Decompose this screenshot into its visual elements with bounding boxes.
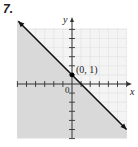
point-label: (0, 1) [76, 64, 98, 76]
x-axis-label: x [129, 86, 135, 97]
origin-label: 0 [65, 85, 70, 95]
y-axis-label: y [62, 14, 68, 25]
inequality-graph: (0, 1) 0 x y [0, 0, 138, 147]
y-axis-arrow-icon [70, 17, 74, 22]
point-0-1 [70, 73, 75, 78]
